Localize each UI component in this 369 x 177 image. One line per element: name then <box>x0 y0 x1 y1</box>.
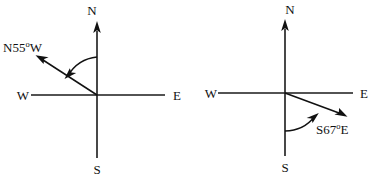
bearing-diagram-s67e: N S E W S67oE <box>205 2 368 175</box>
axis-label-west-left: W <box>17 88 30 103</box>
bearing-diagrams-svg: N S E W N55oW <box>0 0 369 177</box>
bearing-diagram-n55w: N S E W N55oW <box>3 3 181 177</box>
axis-label-east-right: E <box>360 86 368 101</box>
bearing-label-left-prefix: N55 <box>3 40 25 55</box>
axis-label-north-right: N <box>285 2 295 17</box>
compass-bearing-figure: N S E W N55oW <box>0 0 369 177</box>
bearing-ray-right <box>285 93 339 113</box>
bearing-ray-left <box>43 60 97 95</box>
axis-label-south-left: S <box>93 162 100 177</box>
axis-label-north-left: N <box>87 3 97 18</box>
axis-label-west-right: W <box>205 86 218 101</box>
bearing-label-right-suffix: E <box>340 122 348 137</box>
angle-arc-left <box>68 57 97 75</box>
bearing-label-right: S67oE <box>316 121 348 137</box>
bearing-label-right-prefix: S67 <box>316 122 337 137</box>
axis-label-east-left: E <box>173 88 181 103</box>
bearing-label-left-suffix: W <box>30 40 43 55</box>
bearing-label-left: N55oW <box>3 39 43 55</box>
axis-label-south-right: S <box>281 160 288 175</box>
angle-arc-right <box>285 116 315 131</box>
